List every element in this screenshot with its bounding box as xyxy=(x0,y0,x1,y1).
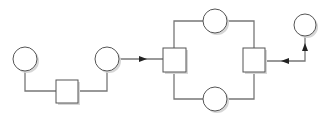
circle-node-shape xyxy=(203,87,227,111)
edge-c1-s1 xyxy=(25,71,56,91)
flow-diagram xyxy=(0,0,334,120)
square-node-shape xyxy=(243,48,265,72)
connector-line xyxy=(265,36,305,61)
edge-s1-c2 xyxy=(78,71,107,91)
circle-5 xyxy=(294,14,318,38)
connector-line xyxy=(227,21,254,48)
circle-node-shape xyxy=(203,9,227,33)
circle-node-shape xyxy=(13,47,37,71)
square-2 xyxy=(163,48,188,74)
connector-line xyxy=(25,71,56,91)
square-node-shape xyxy=(56,80,78,103)
square-node-shape xyxy=(163,48,186,72)
connector-line xyxy=(174,72,203,99)
edge-c3-s3 xyxy=(227,21,254,48)
diagram-canvas xyxy=(0,0,334,120)
circle-3 xyxy=(203,9,229,35)
square-3 xyxy=(243,48,267,74)
circle-node-shape xyxy=(294,14,316,36)
connector-line xyxy=(174,21,203,48)
edge-s2-c3 xyxy=(174,21,203,48)
edge-c2-s2 xyxy=(119,56,163,62)
edge-c5-s3 xyxy=(265,36,308,64)
circle-2 xyxy=(95,47,121,73)
edge-s2-c4 xyxy=(174,72,203,99)
arrowhead-up-icon xyxy=(302,43,308,51)
circle-4 xyxy=(203,87,229,113)
connector-line xyxy=(78,71,107,91)
circle-node-shape xyxy=(95,47,119,71)
edge-c4-s3 xyxy=(227,72,254,99)
connector-line xyxy=(227,72,254,99)
square-1 xyxy=(56,80,80,105)
arrowhead-left-icon xyxy=(281,58,289,64)
circle-1 xyxy=(13,47,39,73)
arrowhead-right-icon xyxy=(139,56,147,62)
